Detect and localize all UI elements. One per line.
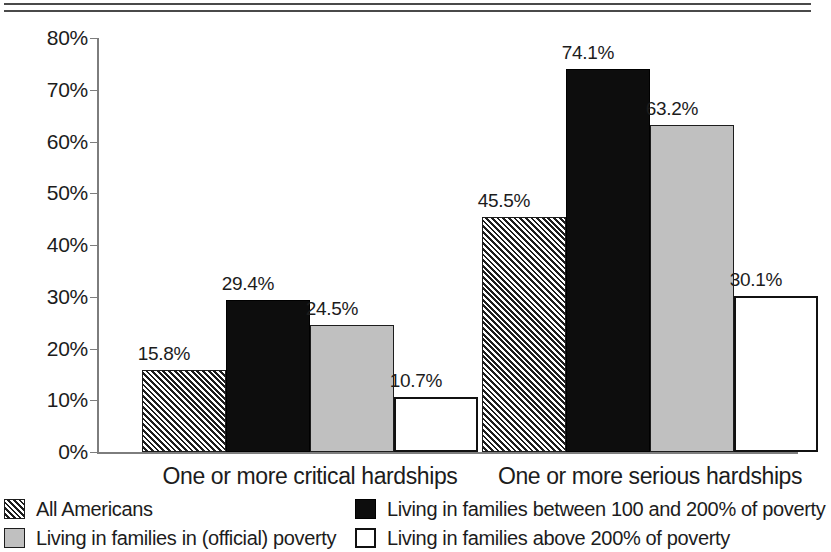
y-axis-tick-label-text: 60% [2, 131, 88, 152]
legend-item-label: Living in families between 100 and 200% … [387, 499, 825, 520]
y-axis-tick-label-text: 10% [2, 389, 88, 410]
y-axis-tick-label-text: 80% [2, 27, 88, 48]
legend-item-label: All Americans [36, 499, 153, 520]
y-axis-tick-label-text: 30% [2, 286, 88, 307]
bar-value-label: 74.1% [546, 43, 630, 62]
y-axis-tick-label-text: 70% [2, 79, 88, 100]
y-axis-tick [90, 90, 98, 91]
bar-value-label: 29.4% [206, 274, 290, 293]
y-axis-tick-label: 70% [0, 79, 88, 100]
header-rule-bottom [4, 10, 811, 12]
y-axis-tick-label: 80% [0, 27, 88, 48]
legend-swatch-hatch [4, 499, 25, 519]
y-axis-tick-label-text: 40% [2, 234, 88, 255]
header-rule-top [4, 3, 811, 5]
plot-area: 15.8%29.4%24.5%10.7%45.5%74.1%63.2%30.1% [98, 38, 798, 452]
bar [482, 217, 566, 452]
y-axis-tick [90, 452, 98, 453]
y-axis-tick-label-text: 0% [2, 441, 88, 462]
bar [394, 397, 478, 452]
bar-value-label: 24.5% [290, 299, 374, 318]
legend-swatch-black [355, 499, 376, 519]
legend-item-label: Living in families in (official) poverty [36, 528, 336, 549]
bar-chart: 80%70%60%50%40%30%20%10%0% 15.8%29.4%24.… [0, 16, 815, 476]
bar [142, 370, 226, 452]
y-axis-tick-label: 30% [0, 286, 88, 307]
y-axis-tick-label: 0% [0, 441, 88, 462]
legend-item: Living in families above 200% of poverty [355, 525, 730, 551]
y-axis-tick-label: 50% [0, 182, 88, 203]
y-axis-tick-label: 10% [0, 389, 88, 410]
bar-value-label: 63.2% [630, 99, 714, 118]
y-axis-tick [90, 349, 98, 350]
bar-value-label: 15.8% [122, 344, 206, 363]
legend-swatch-white [355, 528, 376, 548]
bar [226, 300, 310, 452]
bar [734, 296, 818, 452]
chart-legend: All AmericansLiving in families in (offi… [0, 495, 815, 552]
y-axis-tick-label-text: 20% [2, 338, 88, 359]
x-axis-line [97, 452, 798, 454]
bar-value-label: 10.7% [374, 371, 458, 390]
bar-value-label: 45.5% [462, 191, 546, 210]
y-axis-tick [90, 297, 98, 298]
x-axis-category-label: One or more serious hardships [450, 464, 831, 488]
legend-item: Living in families between 100 and 200% … [355, 496, 825, 522]
bar-value-label: 30.1% [714, 270, 798, 289]
y-axis-tick-label: 40% [0, 234, 88, 255]
legend-item-label: Living in families above 200% of poverty [387, 528, 730, 549]
y-axis-tick-label-text: 50% [2, 182, 88, 203]
y-axis-tick [90, 245, 98, 246]
y-axis-tick-label: 60% [0, 131, 88, 152]
y-axis-tick [90, 142, 98, 143]
y-axis-tick [90, 38, 98, 39]
y-axis-tick [90, 400, 98, 401]
y-axis-tick-label: 20% [0, 338, 88, 359]
legend-swatch-gray [4, 528, 25, 548]
y-axis-tick [90, 193, 98, 194]
bar [566, 69, 650, 452]
legend-item: Living in families in (official) poverty [4, 525, 336, 551]
legend-item: All Americans [4, 496, 153, 522]
header-rules [0, 0, 815, 16]
